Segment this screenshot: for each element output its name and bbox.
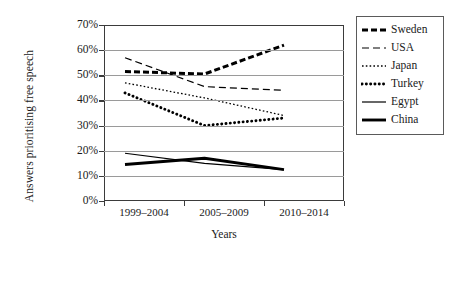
legend-label-turkey: Turkey: [391, 78, 424, 90]
x-axis-title: Years: [104, 228, 344, 240]
gridline-50: [104, 75, 344, 76]
plot-area: [104, 25, 344, 201]
y-axis-title: Answers prioritising free speech: [23, 26, 35, 226]
legend-item-sweden[interactable]: Sweden: [357, 21, 443, 39]
legend: Sweden USA Japan Turkey Egypt China: [356, 16, 444, 135]
line-chart-figure: Answers prioritising free speech 70% 60%…: [0, 0, 450, 294]
gridline-60: [104, 50, 344, 51]
y-tick-label-10: 10%: [54, 170, 98, 182]
y-tick-label-30: 30%: [54, 120, 98, 132]
legend-swatch-egypt-icon: [361, 96, 387, 108]
legend-swatch-china-icon: [361, 114, 387, 126]
y-tick-label-50: 50%: [54, 70, 98, 82]
gridline-10: [104, 176, 344, 177]
x-tick-label-2005-2009: 2005–2009: [179, 206, 269, 218]
legend-swatch-sweden-icon: [361, 24, 387, 36]
y-tick-label-20: 20%: [54, 145, 98, 157]
legend-label-egypt: Egypt: [391, 96, 418, 108]
y-tick-label-40: 40%: [54, 95, 98, 107]
legend-label-china: China: [391, 114, 418, 126]
legend-item-china[interactable]: China: [357, 111, 443, 129]
legend-item-turkey[interactable]: Turkey: [357, 75, 443, 93]
x-tick-label-1999-2004: 1999–2004: [99, 206, 189, 218]
legend-swatch-turkey-icon: [361, 78, 387, 90]
y-tick-label-0: 0%: [54, 195, 98, 207]
legend-item-japan[interactable]: Japan: [357, 57, 443, 75]
legend-label-japan: Japan: [391, 60, 417, 72]
legend-label-sweden: Sweden: [391, 24, 427, 36]
y-tick-label-60: 60%: [54, 44, 98, 56]
plot-frame: [104, 25, 344, 201]
gridline-40: [104, 100, 344, 101]
legend-swatch-usa-icon: [361, 42, 387, 54]
y-tick-label-70: 70%: [54, 19, 98, 31]
legend-label-usa: USA: [391, 42, 414, 54]
gridline-30: [104, 126, 344, 127]
legend-item-usa[interactable]: USA: [357, 39, 443, 57]
legend-swatch-japan-icon: [361, 60, 387, 72]
legend-item-egypt[interactable]: Egypt: [357, 93, 443, 111]
x-tick-label-2010-2014: 2010–2014: [259, 206, 349, 218]
gridline-20: [104, 151, 344, 152]
